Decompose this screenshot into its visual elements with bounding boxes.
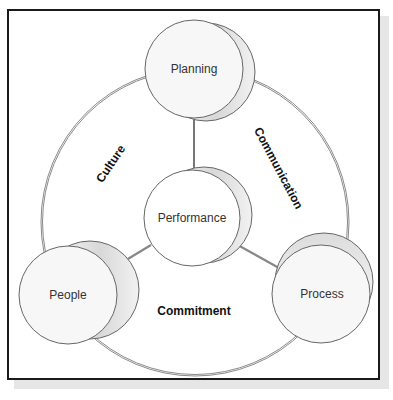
node-label-people: People [49,288,87,302]
ring-label-commitment: Commitment [157,304,230,318]
ring-label-communication: Communication [251,125,306,212]
node-performance-hub[interactable]: Performance [144,167,252,266]
node-planning[interactable]: Planning [145,20,255,121]
node-label-planning: Planning [171,62,218,76]
node-process[interactable]: Process [272,233,373,343]
node-label-process: Process [300,287,343,301]
node-people[interactable]: People [19,241,139,344]
ring-label-culture: Culture [93,142,128,185]
node-label-performance: Performance [158,211,227,225]
diagram-canvas: Planning Performance People Process Cult… [0,0,393,400]
